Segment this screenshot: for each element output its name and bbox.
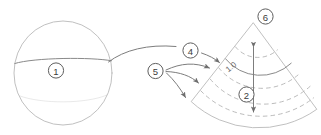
callout-4-leader xyxy=(202,53,220,63)
badge-5: 5 xyxy=(148,63,163,78)
badge-5-label: 5 xyxy=(153,66,158,77)
technical-figure-svg: 1.0 1 2 4 5 xyxy=(0,0,321,135)
badge-6-label: 6 xyxy=(263,12,268,23)
figure-canvas: 1.0 1 2 4 5 xyxy=(0,0,321,135)
badge-1-label: 1 xyxy=(53,66,58,77)
sector-arc-dashed-3 xyxy=(210,79,311,104)
callout-5-arrow-lower xyxy=(167,73,186,98)
badge-6: 6 xyxy=(258,9,273,24)
connector-curve xyxy=(109,46,177,62)
callout-4-arrow xyxy=(202,53,220,63)
sphere-lower-curve xyxy=(20,95,107,102)
badge-1: 1 xyxy=(48,63,63,78)
sphere-to-sector-connector xyxy=(109,46,177,62)
badge-2: 2 xyxy=(239,87,254,102)
badge-4-label: 4 xyxy=(188,46,193,57)
badge-4: 4 xyxy=(183,43,198,58)
sector-arc-dashed-4 xyxy=(201,91,315,117)
callout-5-arrow-upper xyxy=(166,64,210,70)
badge-2-label: 2 xyxy=(244,90,249,101)
scale-annotation: 1.0 xyxy=(224,60,239,74)
sphere-equator-arc xyxy=(15,58,112,63)
